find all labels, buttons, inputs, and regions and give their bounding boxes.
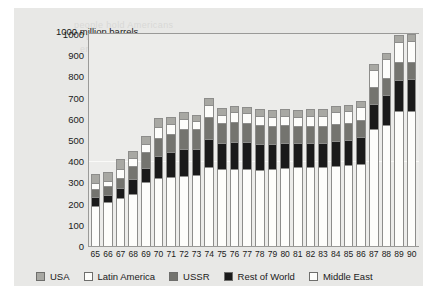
bar-segment [243,124,251,143]
bar-82 [306,109,316,246]
bar-segment [104,187,112,195]
x-axis-tick: 89 [394,249,403,259]
bar-segment [231,113,239,122]
bar-73 [192,115,202,246]
bar-segment [281,126,289,144]
y-axis-tick: 0 [79,241,84,252]
bar-segment [117,189,125,198]
legend-swatch-icon [36,272,45,281]
bar-segment [307,168,315,246]
bar-segment [408,80,416,112]
bar-segment [180,130,188,150]
y-axis-tick: 900 [68,50,84,61]
bar-segment [357,121,365,138]
bar-segment [243,170,251,246]
bar-segment [319,168,327,246]
bar-segment [117,179,125,189]
bar-segment [395,81,403,112]
bar-segment [294,127,302,144]
bar-80 [280,109,290,246]
bar-segment [117,170,125,179]
bar-segment [142,153,150,170]
bar-segment [256,117,264,126]
bar-segment [256,145,264,171]
x-axis-tick: 82 [306,249,315,259]
bar-segment [319,117,327,128]
bar-segment [155,139,163,157]
legend-label: USA [50,271,70,282]
bar-71 [166,117,176,246]
bar-segment [167,118,175,125]
bar-segment [269,145,277,170]
bar-77 [242,107,252,246]
legend-label: Rest of World [238,271,295,282]
legend-label: Middle East [323,271,373,282]
bar-segment [307,144,315,168]
bar-segment [383,96,391,126]
bar-segment [408,35,416,42]
bar-segment [193,176,201,246]
x-axis-tick: 71 [167,249,176,259]
bar-segment [357,108,365,121]
bar-segment [117,199,125,246]
bar-segment [92,190,100,198]
bar-segment [142,137,150,145]
bar-segment [167,125,175,134]
bar-segment [117,160,125,169]
bar-segment [129,167,137,180]
bar-segment [332,113,340,125]
bar-segment [319,144,327,168]
bar-segment [104,196,112,203]
bar-segment [332,167,340,246]
x-axis-tick: 76 [230,249,239,259]
y-axis-tick: 700 [68,92,84,103]
bar-segment [269,127,277,145]
bar-segment [307,127,315,144]
bar-89 [394,35,404,246]
bar-segment [205,168,213,246]
bar-segment [180,177,188,246]
y-axis-tick: 200 [68,198,84,209]
bar-segment [345,124,353,141]
bar-segment [345,166,353,246]
bar-segment [193,130,201,150]
plot-area: 1000900800700600500400300200100065666768… [88,33,419,247]
bar-segment [357,165,365,246]
y-axis-tick: 500 [68,135,84,146]
x-axis-tick: 67 [116,249,125,259]
bar-segment [395,112,403,246]
bar-segment [104,203,112,246]
bar-segment [205,118,213,140]
bar-78 [255,109,265,246]
bar-segment [370,130,378,246]
legend-swatch-icon [169,272,178,281]
bar-segment [193,122,201,130]
x-axis-tick: 79 [268,249,277,259]
x-axis-tick: 81 [293,249,302,259]
bar-segment [155,179,163,246]
bar-segment [231,143,239,170]
bar-84 [331,106,341,246]
bar-segment [218,144,226,170]
bar-segment [129,159,137,167]
bar-segment [243,143,251,170]
bar-segment [294,118,302,127]
bar-segment [319,127,327,144]
x-axis-tick: 68 [129,249,138,259]
bar-segment [332,125,340,142]
y-axis-tick: 600 [68,113,84,124]
bar-segment [370,105,378,130]
bar-segment [155,128,163,139]
bar-segment [155,119,163,128]
bar-segment [383,126,391,246]
x-axis-tick: 80 [280,249,289,259]
y-axis-tick: 400 [68,156,84,167]
bar-segment [383,79,391,96]
bar-segment [408,42,416,63]
bar-segment [167,178,175,246]
gridline [89,34,419,35]
bar-66 [103,172,113,246]
bar-segment [92,198,100,207]
bar-segment [129,180,137,195]
bar-segment [218,116,226,124]
